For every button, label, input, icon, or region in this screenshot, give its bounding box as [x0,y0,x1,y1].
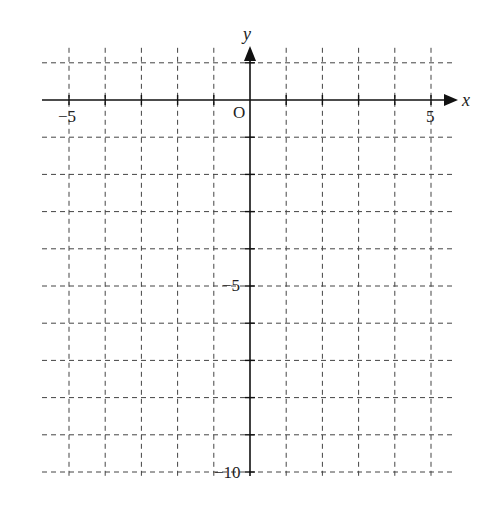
x-axis-arrow-icon [444,94,458,106]
coordinate-plane: x y O −5 5 −5 −10 [0,0,495,515]
x-tick-label-neg5: −5 [58,107,76,126]
y-axis-label: y [241,24,251,44]
y-axis-arrow-icon [244,46,256,61]
grid-lines [42,48,456,478]
y-tick-label-neg5: −5 [222,276,240,295]
y-tick-label-neg10: −10 [214,463,241,482]
origin-label: O [233,103,245,122]
x-tick-label-pos5: 5 [426,107,435,126]
x-axis-label: x [461,90,470,110]
